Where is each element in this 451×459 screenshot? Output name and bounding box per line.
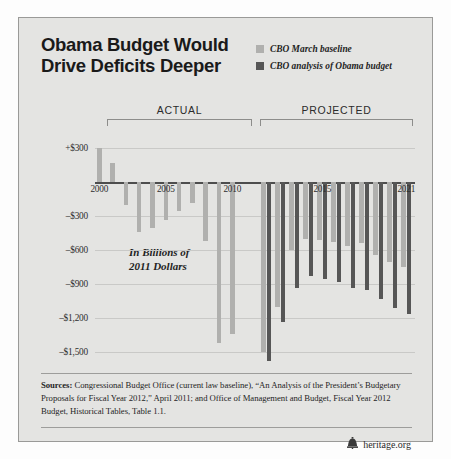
title-line-2: Drive Deficits Deeper — [41, 56, 256, 77]
bar-baseline-2018 — [359, 182, 364, 243]
x-axis-tick-label: 2015 — [313, 184, 331, 194]
bar-obama-2021 — [407, 182, 411, 314]
brand: heritage.org — [347, 435, 411, 453]
bar-actual-2008 — [203, 182, 208, 240]
bar-actual-2003 — [137, 182, 142, 232]
bar-obama-2020 — [393, 182, 397, 307]
bar-baseline-2016 — [331, 182, 336, 242]
legend-label-obama-budget: CBO analysis of Obama budget — [270, 61, 392, 71]
band-label-projected: PROJECTED — [260, 104, 413, 116]
bar-baseline-2020 — [387, 182, 392, 261]
bar-obama-2013 — [295, 182, 299, 287]
bar-obama-2018 — [365, 182, 369, 290]
x-axis-tick-label: 2005 — [157, 184, 175, 194]
bar-actual-2010 — [230, 182, 235, 333]
title-line-1: Obama Budget Would — [41, 34, 228, 55]
gridline — [95, 148, 415, 149]
bar-baseline-2011 — [261, 182, 266, 352]
sources-label: Sources: — [41, 380, 72, 390]
x-axis-tick-label: 2000 — [90, 184, 108, 194]
legend-label-baseline: CBO March baseline — [270, 44, 352, 54]
bar-actual-2007 — [190, 182, 195, 203]
bar-actual-2002 — [124, 182, 129, 205]
bar-baseline-2014 — [303, 182, 308, 239]
bar-obama-2016 — [337, 182, 341, 282]
footer-divider-bottom — [41, 427, 412, 428]
legend-item-obama-budget: CBO analysis of Obama budget — [256, 59, 431, 72]
bar-obama-2014 — [309, 182, 313, 276]
annotation-line-2: 2011 Dollars — [129, 260, 190, 274]
bracket-actual — [107, 119, 252, 126]
bar-obama-2017 — [351, 182, 355, 287]
gridline — [95, 352, 415, 353]
y-axis-tick-label: –$600 — [66, 245, 88, 255]
bar-baseline-2019 — [373, 182, 378, 255]
bar-baseline-2021 — [401, 182, 406, 267]
brand-name: heritage.org — [363, 439, 411, 450]
page-title: Obama Budget Would Drive Deficits Deeper — [41, 35, 256, 77]
plot-area: In Billions of 2011 Dollars +$300–$300–$… — [95, 138, 415, 366]
sources-text: Congressional Budget Office (current law… — [41, 380, 401, 416]
gridline — [95, 318, 415, 319]
legend-swatch-baseline — [256, 45, 264, 53]
x-axis-tick-label: 2021 — [397, 184, 415, 194]
bar-baseline-2012 — [275, 182, 280, 307]
legend-swatch-obama-budget — [256, 62, 264, 70]
bar-actual-2009 — [217, 182, 222, 343]
y-axis-tick-label: –$1,200 — [59, 313, 88, 323]
bar-actual-2000 — [97, 148, 102, 182]
footer-divider-top — [41, 373, 412, 374]
bar-baseline-2013 — [289, 182, 294, 250]
bar-actual-2004 — [150, 182, 155, 227]
x-axis-tick-label: 2010 — [223, 184, 241, 194]
bar-baseline-2017 — [345, 182, 350, 246]
y-axis-tick-label: –$900 — [66, 279, 88, 289]
y-axis-tick-label: +$300 — [65, 143, 88, 153]
bar-obama-2011 — [267, 182, 271, 361]
sources-note: Sources: Congressional Budget Office (cu… — [41, 379, 413, 418]
bar-obama-2012 — [281, 182, 285, 322]
band-label-actual: ACTUAL — [107, 104, 252, 116]
y-axis-tick-label: –$1,500 — [59, 347, 88, 357]
legend: CBO March baseline CBO analysis of Obama… — [256, 42, 431, 76]
legend-item-baseline: CBO March baseline — [256, 42, 431, 55]
bar-obama-2015 — [323, 182, 327, 279]
chart-card: Obama Budget Would Drive Deficits Deeper… — [18, 17, 433, 442]
y-axis-tick-label: –$300 — [66, 211, 88, 221]
bar-actual-2006 — [177, 182, 182, 211]
bar-actual-2001 — [110, 163, 115, 182]
annotation-line-1: In Billions of — [129, 246, 190, 260]
liberty-bell-icon — [347, 435, 358, 453]
bracket-projected — [260, 119, 413, 126]
bar-obama-2019 — [379, 182, 383, 299]
